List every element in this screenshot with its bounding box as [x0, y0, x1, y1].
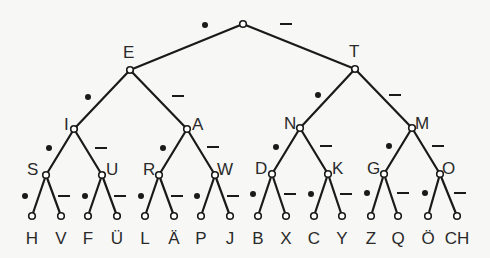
leaf-node — [114, 213, 121, 220]
leaf-node — [395, 213, 402, 220]
edge — [130, 24, 243, 70]
edge — [384, 128, 412, 174]
leaf-node — [339, 213, 346, 220]
tree-nodes — [29, 21, 461, 220]
leaf-label: Ä — [168, 229, 180, 248]
dot-mark-icon — [82, 193, 88, 199]
leaf-label: X — [280, 229, 291, 248]
node-e — [127, 67, 134, 74]
dot-mark-icon — [308, 191, 314, 197]
node-i — [71, 126, 78, 133]
edge — [243, 24, 355, 69]
leaf-label: F — [83, 229, 93, 248]
leaf-node — [311, 213, 318, 220]
edge — [428, 174, 440, 216]
edge — [300, 69, 355, 128]
edge — [74, 70, 130, 129]
dot-mark-icon — [85, 94, 91, 100]
leaf-label: Y — [336, 229, 347, 248]
node-r — [156, 172, 163, 179]
node-n — [297, 125, 304, 132]
dot-mark-icon — [386, 143, 392, 149]
leaf-label: L — [140, 229, 149, 248]
edge — [145, 175, 159, 216]
leaf-label: P — [195, 229, 206, 248]
edge — [355, 69, 412, 128]
leaf-label: H — [26, 229, 38, 248]
leaf-node — [368, 213, 375, 220]
node-d — [269, 171, 276, 178]
leaf-label: CH — [445, 229, 470, 248]
edge — [74, 129, 102, 175]
dot-mark-icon — [250, 191, 256, 197]
node-label: A — [192, 115, 204, 134]
leaf-label: Z — [366, 229, 376, 248]
edge — [272, 174, 286, 216]
node-g — [381, 171, 388, 178]
morse-tree-diagram: ETIANMSURWDKGOHVFÜLÄPJBXCYZQÖCH — [0, 0, 490, 258]
node-label: D — [255, 159, 267, 178]
leaf-node — [171, 213, 178, 220]
node-label: W — [217, 160, 233, 179]
node-u — [99, 172, 106, 179]
edge — [371, 174, 384, 216]
node-label: S — [27, 160, 38, 179]
node-k — [325, 171, 332, 178]
dot-mark-icon — [315, 92, 321, 98]
node-label: G — [367, 159, 380, 178]
leaf-label: J — [226, 229, 235, 248]
leaf-label: C — [308, 229, 320, 248]
leaf-node — [29, 213, 36, 220]
leaf-node — [142, 213, 149, 220]
node-t — [352, 66, 359, 73]
leaf-node — [85, 213, 92, 220]
leaf-node — [198, 213, 205, 220]
edge — [130, 70, 187, 129]
leaf-label: Ö — [421, 229, 434, 248]
dot-mark-icon — [46, 145, 52, 151]
node-label: T — [349, 42, 359, 61]
leaf-node — [425, 213, 432, 220]
node-label: I — [64, 115, 69, 134]
leaf-node — [255, 213, 262, 220]
dot-mark-icon — [364, 190, 370, 196]
edge — [46, 129, 74, 175]
node-label: E — [123, 43, 134, 62]
edge — [201, 175, 215, 216]
node-s — [43, 172, 50, 179]
node-label: N — [284, 114, 296, 133]
leaf-node — [227, 213, 234, 220]
edge — [159, 129, 187, 175]
root-node — [240, 21, 247, 28]
branch-marks — [22, 22, 466, 199]
node-label: U — [106, 160, 118, 179]
leaf-node — [454, 213, 461, 220]
node-label: R — [143, 160, 155, 179]
leaf-node — [58, 213, 65, 220]
node-a — [184, 126, 191, 133]
edge — [314, 174, 328, 216]
dot-mark-icon — [160, 145, 166, 151]
dot-mark-icon — [22, 193, 28, 199]
leaf-label: Ü — [111, 229, 123, 248]
edge — [258, 174, 272, 216]
dot-mark-icon — [422, 190, 428, 196]
edge — [300, 128, 328, 174]
edge — [384, 174, 398, 216]
leaf-node — [283, 213, 290, 220]
leaf-label: Q — [391, 229, 404, 248]
leaf-label: V — [55, 229, 67, 248]
edge — [412, 128, 440, 174]
edge — [88, 175, 102, 216]
edge — [440, 174, 457, 216]
dot-mark-icon — [273, 144, 279, 150]
node-label: K — [332, 159, 344, 178]
edge — [32, 175, 46, 216]
tree-edges — [32, 24, 457, 216]
edge — [328, 174, 342, 216]
leaf-label: B — [252, 229, 263, 248]
node-label: M — [415, 114, 429, 133]
dot-mark-icon — [202, 22, 208, 28]
dot-mark-icon — [138, 193, 144, 199]
edge — [272, 128, 300, 174]
